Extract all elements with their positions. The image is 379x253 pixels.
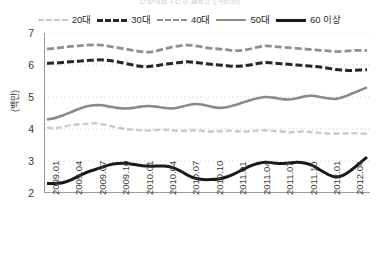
x-axis-tick-label: 2009.10 [121,161,131,195]
x-axis-tick-label: 2011.04 [262,161,272,195]
y-axis-tick-label: 5 [28,92,34,103]
x-axis-tick-label: 2012.01 [332,161,342,195]
x-axis-tick-label: 2011.07 [285,161,295,195]
y-axis-title: (백만) [10,84,20,118]
x-axis-tick-label: 2009.01 [51,161,61,195]
series-line-20대 [47,123,367,134]
chart-title: 연령대별 1인당 월평균 (백만원) [0,0,379,9]
legend-item[interactable]: 60 이상 [276,15,341,25]
x-axis-tick-label: 2011.10 [309,161,319,195]
legend-item[interactable]: 30대 [97,15,151,25]
legend-label: 60 이상 [310,15,341,25]
plot-svg [44,33,370,193]
legend-item[interactable]: 40대 [157,15,211,25]
x-axis-tick-label: 2011.01 [238,161,248,195]
chart-legend: 20대30대40대50대60 이상 [0,12,379,28]
legend-item[interactable]: 20대 [38,15,92,25]
y-axis-tick-label: 6 [28,60,34,71]
series-line-30대 [47,60,367,71]
y-axis-tick-label: 2 [28,188,34,199]
y-axis-tick-label: 4 [28,124,34,135]
x-axis-tick-label: 2010.04 [168,161,178,195]
series-line-50대 [47,87,367,119]
series-line-40대 [47,45,367,52]
y-axis: 234567 [0,33,40,193]
legend-label: 30대 [131,15,151,25]
y-axis-tick-label: 3 [28,156,34,167]
legend-label: 50대 [250,15,270,25]
legend-label: 20대 [72,15,92,25]
x-axis-tick-label: 2009.04 [74,161,84,195]
x-axis-tick-label: 2012.04 [355,161,365,195]
chart-title-text: 연령대별 1인당 월평균 (백만원) [0,0,379,5]
chart-container: 연령대별 1인당 월평균 (백만원) 20대30대40대50대60 이상 234… [0,0,379,253]
series-line-60 이상 [47,157,367,183]
x-axis: 2009.012009.042009.072009.102010.012010.… [44,195,370,253]
plot-area [44,33,370,193]
x-axis-tick-label: 2009.07 [98,161,108,195]
x-axis-tick-label: 2010.07 [191,161,201,195]
legend-item[interactable]: 50대 [216,15,270,25]
y-axis-tick-label: 7 [28,28,34,39]
x-axis-tick-label: 2010.10 [215,161,225,195]
legend-label: 40대 [191,15,211,25]
x-axis-tick-label: 2010.01 [145,161,155,195]
